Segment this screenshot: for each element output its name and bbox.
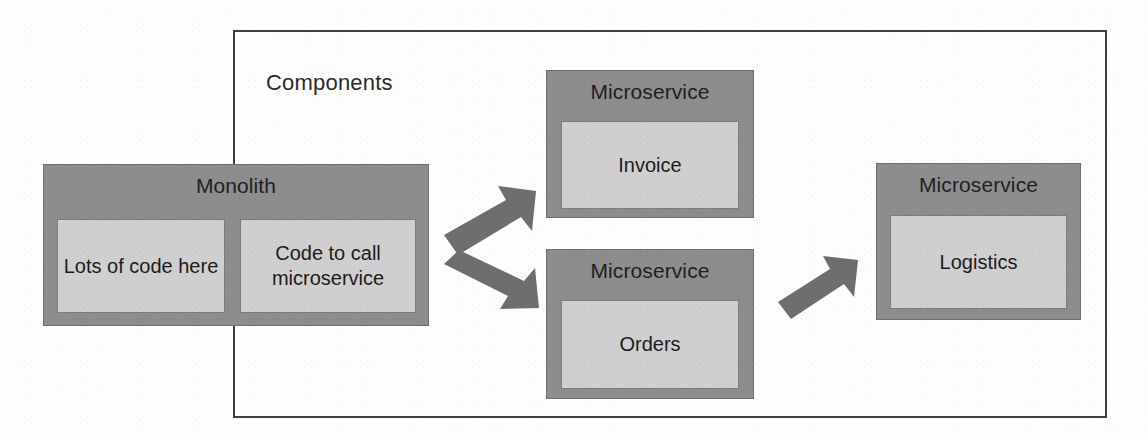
arrow-monolith-to-orders bbox=[444, 250, 550, 322]
microservice-logistics-name: Logistics bbox=[936, 250, 1022, 275]
microservice-orders-name: Orders bbox=[615, 332, 684, 357]
monolith-panel-lots-of-code: Lots of code here bbox=[57, 219, 225, 313]
microservice-orders-panel: Orders bbox=[561, 300, 739, 389]
microservice-logistics-panel: Logistics bbox=[890, 215, 1067, 309]
microservice-invoice-panel: Invoice bbox=[561, 121, 739, 209]
arrow-monolith-to-invoice bbox=[444, 186, 548, 258]
monolith-panel-code-to-call-microservice: Code to call microservice bbox=[240, 219, 416, 313]
monolith-panel-lots-of-code-label: Lots of code here bbox=[60, 254, 223, 279]
microservice-invoice-name: Invoice bbox=[614, 153, 685, 178]
arrow-orders-to-logistics bbox=[778, 256, 866, 322]
microservice-orders-title: Microservice bbox=[547, 259, 753, 283]
components-boundary-label: Components bbox=[266, 70, 393, 96]
microservice-logistics-title: Microservice bbox=[877, 173, 1080, 197]
microservice-invoice-title: Microservice bbox=[547, 80, 753, 104]
diagram-canvas: Components Monolith Lots of code here Co… bbox=[0, 0, 1147, 437]
monolith-panel-code-to-call-microservice-label: Code to call microservice bbox=[241, 241, 415, 291]
monolith-title: Monolith bbox=[44, 174, 428, 198]
